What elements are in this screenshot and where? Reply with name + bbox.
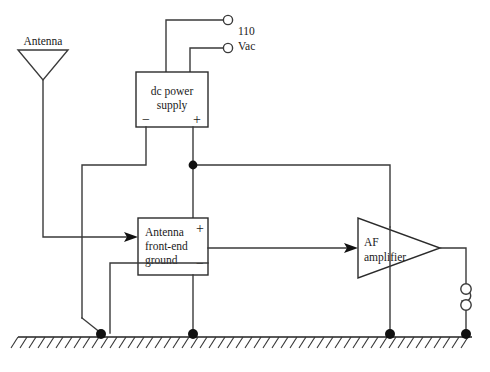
front-end-label-line2: front-end <box>145 240 188 252</box>
dc-power-supply-block[interactable]: dc power supply − + <box>136 72 208 127</box>
dc-power-supply-label-line1: dc power <box>151 85 194 98</box>
antenna-label: Antenna <box>24 35 63 47</box>
ground-bus <box>11 337 472 348</box>
circuit-diagram: 110 Vac dc power supply − + Antenna <box>0 0 490 372</box>
af-amplifier-label-line1: AF <box>364 236 379 248</box>
front-end-label-line3: ground <box>145 254 178 267</box>
mains-label-line1: 110 <box>238 25 255 37</box>
mains-label-line2: Vac <box>238 40 255 52</box>
af-amplifier-block[interactable]: AF amplifier <box>358 218 440 333</box>
dc-supply-negative-sign: − <box>142 112 150 127</box>
mains-input-group: 110 Vac <box>166 15 255 72</box>
dc-supply-positive-sign: + <box>193 112 201 127</box>
antenna-group: Antenna <box>18 35 133 237</box>
ground-node-amplifier <box>385 329 395 339</box>
ground-node-front-end <box>188 329 198 339</box>
front-end-to-amplifier-wire <box>208 243 358 253</box>
ground-node-supply-negative <box>96 329 106 339</box>
antenna-triangle-icon <box>18 50 68 80</box>
front-end-positive-sign: + <box>196 221 204 236</box>
front-end-label-line1: Antenna <box>145 226 184 238</box>
triangle-amplifier-icon[interactable] <box>358 218 440 278</box>
amplifier-output-group <box>440 248 471 333</box>
supply-positive-junction-node <box>189 161 198 170</box>
mains-terminal-bottom[interactable] <box>223 43 232 52</box>
supply-positive-wire <box>189 127 390 227</box>
ground-hatch-icon <box>11 337 468 348</box>
transducer-terminal-bottom[interactable] <box>461 300 471 310</box>
mains-terminal-top[interactable] <box>223 15 232 24</box>
antenna-front-end-ground-block[interactable]: Antenna front-end ground + − <box>138 218 208 275</box>
dc-power-supply-label-line2: supply <box>157 99 188 112</box>
circuit-canvas: 110 Vac dc power supply − + Antenna <box>0 0 490 372</box>
af-amplifier-label-line2: amplifier <box>364 251 406 264</box>
supply-negative-wire <box>82 127 146 333</box>
ground-node-transducer <box>461 329 471 339</box>
